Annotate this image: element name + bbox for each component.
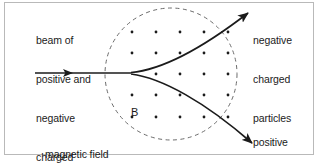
magnetic-caption-line-1: magnetic field (45, 148, 108, 161)
field-dot (179, 94, 182, 97)
field-dot-grid (131, 31, 230, 119)
field-dot (155, 31, 158, 34)
field-dot (131, 31, 134, 34)
field-dot (203, 94, 206, 97)
field-dot (203, 73, 206, 76)
field-dot (155, 73, 158, 76)
field-dot (131, 52, 134, 55)
magnetic-field-caption: magnetic field (out of paper) (45, 122, 108, 164)
field-dot (155, 116, 158, 119)
field-dot (227, 52, 230, 55)
positive-particle-track (131, 74, 252, 143)
field-dot (179, 116, 182, 119)
field-dot (179, 31, 182, 34)
field-dot (227, 116, 230, 119)
positive-charged-particles-label: positive charged particles (253, 110, 291, 164)
field-dot (203, 116, 206, 119)
physics-diagram: beam of positive and negative charged pa… (0, 0, 315, 164)
field-dot (203, 52, 206, 55)
beam-label-line-1: beam of (36, 34, 91, 47)
negative-label-line-1: negative (253, 34, 292, 47)
field-dot (227, 31, 230, 34)
field-dot (155, 52, 158, 55)
field-dot (203, 31, 206, 34)
field-dot (179, 52, 182, 55)
positive-label-line-1: positive (253, 136, 291, 149)
beam-label-line-2: positive and (36, 73, 91, 86)
b-field-symbol: B (131, 106, 138, 118)
magnetic-field-circle (105, 8, 237, 140)
field-dot (131, 94, 134, 97)
negative-particle-track (131, 13, 248, 73)
field-dot (179, 73, 182, 76)
field-dot (227, 94, 230, 97)
negative-label-line-2: charged (253, 73, 292, 86)
field-dot (155, 94, 158, 97)
field-dot (227, 73, 230, 76)
